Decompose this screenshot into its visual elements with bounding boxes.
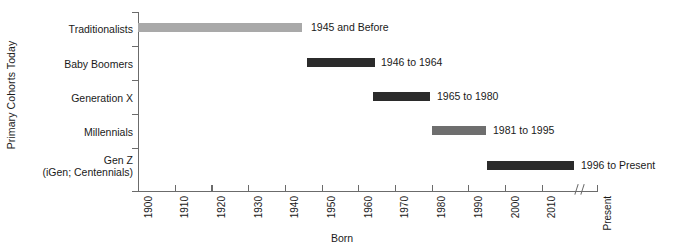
x-axis-tick-label-1940: 1940: [289, 196, 300, 218]
x-axis-tick-present: [597, 185, 598, 191]
x-axis-tick-1930: [248, 185, 249, 191]
category-label-gen-z-line2: (iGen; Centennials): [43, 166, 133, 179]
x-axis-tick-1950: [322, 185, 323, 191]
category-label-generation-x: Generation X: [71, 92, 133, 104]
x-axis-tick-label-1990: 1990: [473, 196, 484, 218]
x-axis-tick-label-1980: 1980: [436, 196, 447, 218]
bar-baby-boomers: [307, 58, 375, 67]
x-axis-tick-label-1910: 1910: [179, 196, 190, 218]
x-axis-tick-1990: [468, 185, 469, 191]
x-axis-tick-label-1970: 1970: [399, 196, 410, 218]
x-axis-tick-label-1920: 1920: [216, 196, 227, 218]
bar-label-gen-z: 1996 to Present: [581, 159, 655, 171]
x-axis-tick-1960: [358, 185, 359, 191]
bar-millennials: [432, 126, 486, 135]
y-axis-title-container: Primary Cohorts Today: [0, 0, 22, 190]
y-axis-title: Primary Cohorts Today: [5, 41, 17, 150]
y-axis-tick: [132, 80, 138, 81]
bar-label-millennials: 1981 to 1995: [493, 124, 554, 136]
y-axis-line: [138, 12, 139, 192]
x-axis-tick-label-2000: 2000: [510, 196, 521, 218]
x-axis-tick-label-1900: 1900: [143, 196, 154, 218]
bar-traditionalists: [138, 23, 302, 32]
x-axis-tick-1900: [138, 185, 139, 191]
x-axis-tick-1970: [395, 185, 396, 191]
x-axis-tick-2000: [505, 185, 506, 191]
bar-generation-x: [373, 92, 430, 101]
y-axis-tick: [132, 12, 138, 13]
x-axis-tick-label-1960: 1960: [363, 196, 374, 218]
x-axis-tick-label-2010: 2010: [546, 196, 557, 218]
bar-gen-z: [487, 161, 574, 170]
x-axis-tick-1920: [211, 185, 212, 191]
category-label-gen-z-line1: Gen Z: [104, 154, 133, 167]
category-label-traditionalists: Traditionalists: [69, 23, 133, 35]
x-axis-tick-1980: [432, 185, 433, 191]
axis-break-icon: [574, 184, 579, 195]
generational-cohorts-chart: Primary Cohorts Today Traditionalists Ba…: [0, 0, 673, 250]
axis-break-icon: [580, 184, 585, 195]
category-label-baby-boomers: Baby Boomers: [64, 58, 133, 70]
y-axis-tick: [132, 46, 138, 47]
category-label-millennials: Millennials: [84, 126, 133, 138]
x-axis-tick-2010: [542, 185, 543, 191]
x-axis-tick-1940: [285, 185, 286, 191]
x-axis-line: [138, 191, 598, 192]
y-axis-tick: [132, 114, 138, 115]
bar-label-baby-boomers: 1946 to 1964: [381, 56, 442, 68]
x-axis-title: Born: [331, 232, 353, 244]
bar-label-generation-x: 1965 to 1980: [437, 90, 498, 102]
x-axis-tick-label-1930: 1930: [253, 196, 264, 218]
x-axis-tick-label-1950: 1950: [326, 196, 337, 218]
x-axis-tick-1910: [175, 185, 176, 191]
bar-label-traditionalists: 1945 and Before: [311, 21, 389, 33]
y-axis-tick: [132, 148, 138, 149]
y-axis-tick: [132, 191, 138, 192]
x-axis-tick-label-present: Present: [602, 196, 613, 230]
